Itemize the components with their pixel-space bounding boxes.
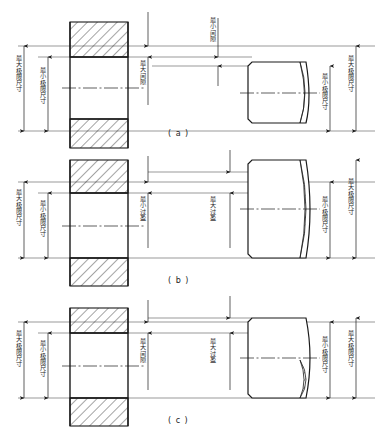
panel-b-label-shaft-max-limit: 最大极限尺寸 xyxy=(347,178,353,216)
panel-c-label-max-clearance: 最大间隙 xyxy=(139,338,145,363)
panel-b-shaft xyxy=(240,160,320,258)
panel-b-label-hole-max-limit: 最大极限尺寸 xyxy=(15,189,21,227)
panel-c-caption: ( c ) xyxy=(168,416,189,425)
panel-a-hole xyxy=(62,22,146,148)
panel-a-label-shaft-max-limit: 最大极限尺寸 xyxy=(347,55,353,93)
panel-a-label-max-clearance: 最大间隙 xyxy=(139,60,145,85)
panel-c-label-hole-min-limit: 最小极限尺寸 xyxy=(39,340,45,378)
panel-a-shaft xyxy=(240,62,320,123)
panel-c-hole xyxy=(62,308,146,426)
panel-b-label-max-interference: 最大过盈 xyxy=(209,196,215,221)
panel-c-shaft xyxy=(240,318,320,398)
panel-a-label-shaft-min-limit: 最小极限尺寸 xyxy=(321,73,327,111)
panel-a-label-hole-max-limit: 最大极限尺寸 xyxy=(15,55,21,93)
hole-upper-hatch xyxy=(70,22,128,57)
panel-c-label-max-interference: 最大过盈 xyxy=(209,338,215,363)
panel-b-caption: ( b ) xyxy=(168,276,189,285)
panel-b-label-shaft-min-limit: 最小极限尺寸 xyxy=(321,196,327,234)
hole-lower-hatch xyxy=(70,258,128,286)
shaft-body-fill xyxy=(248,62,309,123)
panel-c-label-shaft-max-limit: 最大极限尺寸 xyxy=(347,330,353,368)
hole-lower-hatch xyxy=(70,398,128,426)
panel-b-hole xyxy=(62,160,146,286)
hole-lower-hatch xyxy=(70,119,128,148)
figure-canvas: 最大极限尺寸 最小极限尺寸 最大间隙 最小间隙 最小极限尺寸 最大极限尺寸 ( … xyxy=(0,0,380,444)
panel-a-label-min-clearance: 最小间隙 xyxy=(209,17,215,42)
panel-a-label-hole-min-limit: 最小极限尺寸 xyxy=(39,67,45,105)
hole-upper-hatch xyxy=(70,160,128,193)
panel-b-label-min-interference: 最小过盈 xyxy=(139,196,145,221)
panel-a-caption: ( a ) xyxy=(168,129,189,138)
hole-upper-hatch xyxy=(70,308,128,333)
panel-c-label-hole-max-limit: 最大极限尺寸 xyxy=(15,330,21,368)
panel-b-label-hole-min-limit: 最小极限尺寸 xyxy=(39,200,45,238)
panel-c-label-shaft-min-limit: 最小极限尺寸 xyxy=(321,336,327,374)
